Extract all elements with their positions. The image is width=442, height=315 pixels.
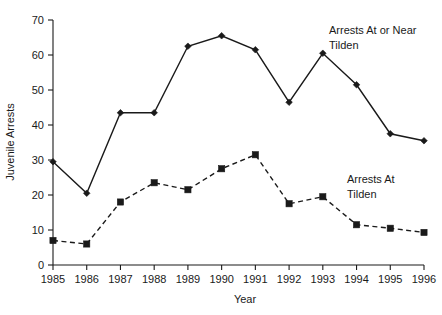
y-axis: 010203040506070: [32, 14, 53, 271]
data-point-square: [387, 225, 393, 231]
x-tick-label: 1986: [74, 273, 98, 285]
x-tick-label: 1991: [243, 273, 267, 285]
data-point-square: [219, 166, 225, 172]
data-point-diamond: [185, 43, 192, 50]
x-tick-label: 1992: [277, 273, 301, 285]
y-tick-label: 50: [32, 84, 44, 96]
x-tick-label: 1988: [142, 273, 166, 285]
y-tick-label: 40: [32, 119, 44, 131]
data-series-group: [50, 32, 428, 247]
series-label-2: Arrests AtTilden: [347, 173, 395, 200]
x-tick-label: 1990: [209, 273, 233, 285]
series-label-line-1: Arrests At or Near: [329, 24, 417, 36]
x-tick-label: 1987: [108, 273, 132, 285]
series-label-line-1: Arrests At: [347, 173, 395, 185]
series-label-1: Arrests At or NearTilden: [329, 24, 417, 51]
y-tick-label: 0: [38, 259, 44, 271]
y-tick-label: 30: [32, 154, 44, 166]
y-tick-label: 20: [32, 189, 44, 201]
series-annotations: Arrests At or NearTildenArrests AtTilden: [329, 24, 417, 200]
x-tick-label: 1996: [412, 273, 436, 285]
data-point-square: [320, 194, 326, 200]
data-point-square: [421, 229, 427, 235]
series-label-line-2: Tilden: [347, 188, 377, 200]
x-tick-label: 1989: [176, 273, 200, 285]
y-tick-label: 10: [32, 224, 44, 236]
x-axis: 1985198619871988198919901991199219931994…: [41, 265, 436, 285]
series-label-line-2: Tilden: [329, 39, 359, 51]
y-tick-label: 70: [32, 14, 44, 26]
y-axis-title: Juvenile Arrests: [4, 103, 16, 181]
y-tick-label: 60: [32, 49, 44, 61]
data-point-diamond: [218, 32, 225, 39]
data-point-square: [185, 187, 191, 193]
x-tick-label: 1994: [344, 273, 368, 285]
series-line: [53, 36, 424, 194]
x-axis-title: Year: [234, 293, 257, 305]
x-tick-label: 1995: [378, 273, 402, 285]
line-chart: 010203040506070 198519861987198819891990…: [0, 0, 442, 315]
data-point-square: [117, 199, 123, 205]
data-point-square: [286, 201, 292, 207]
data-point-square: [252, 152, 258, 158]
chart-container: 010203040506070 198519861987198819891990…: [0, 0, 442, 315]
data-point-square: [353, 222, 359, 228]
series-1: [50, 32, 428, 196]
data-point-diamond: [151, 109, 158, 116]
x-tick-label: 1993: [311, 273, 335, 285]
data-point-diamond: [421, 137, 428, 144]
data-point-square: [84, 241, 90, 247]
x-tick-label: 1985: [41, 273, 65, 285]
data-point-square: [50, 237, 56, 243]
data-point-square: [151, 180, 157, 186]
data-point-diamond: [117, 109, 124, 116]
